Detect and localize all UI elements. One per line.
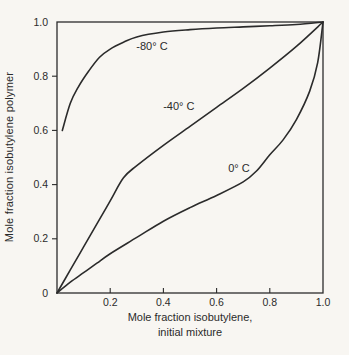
isobutylene-copolymerization-chart: 0.20.40.60.81.000.20.40.60.81.0-80° C-40… [0,0,349,355]
curve-2-0c [57,22,323,293]
x-tick-label: 1.0 [316,296,331,308]
curve-label-2: 0° C [228,162,250,174]
y-tick-label: 0.6 [33,124,48,136]
figure-page: 0.20.40.60.81.000.20.40.60.81.0-80° C-40… [0,0,349,355]
x-tick-label: 0.6 [209,296,224,308]
chart-plot-area: 0.20.40.60.81.000.20.40.60.81.0-80° C-40… [0,0,349,355]
plot-frame [57,22,323,293]
x-tick-label: 0.4 [156,296,171,308]
x-tick-label: 0.8 [262,296,277,308]
x-tick-label: 0.2 [103,296,118,308]
curve-label-0: -80° C [136,40,167,52]
curve-0-80c [62,22,323,130]
x-axis-title: Mole fraction isobutylene, initial mixtu… [128,310,253,340]
x-axis-title-line2: initial mixture [128,325,253,340]
y-tick-label: 0 [42,287,48,299]
x-axis-title-line1: Mole fraction isobutylene, [128,310,253,325]
y-tick-label: 0.2 [33,232,48,244]
y-axis-title: Mole fraction isobutylene polymer [3,72,15,242]
curve-1-40c [57,22,323,293]
y-tick-label: 1.0 [33,16,48,28]
curve-label-1: -40° C [163,100,194,112]
y-tick-label: 0.4 [33,178,48,190]
y-tick-label: 0.8 [33,70,48,82]
